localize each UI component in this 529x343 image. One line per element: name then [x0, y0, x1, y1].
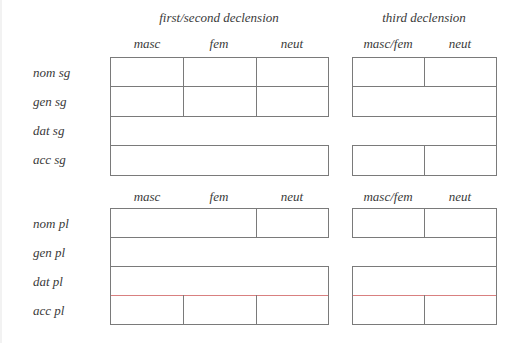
- grid-line: [352, 324, 497, 325]
- grid-line: [110, 175, 329, 176]
- cell-acc-sg-third-neut[interactable]: [425, 146, 496, 175]
- cell-nom-sg-masc[interactable]: [111, 58, 183, 86]
- cell-gen-pl-all[interactable]: [111, 238, 496, 266]
- cell-acc-pl-masc[interactable]: [111, 296, 183, 324]
- grid-line: [496, 208, 497, 325]
- grid-line: [496, 57, 497, 176]
- cell-gen-sg-fem[interactable]: [184, 87, 256, 116]
- grid-line: [328, 266, 329, 325]
- col-header-masc-fem-pl: masc/fem: [363, 189, 412, 205]
- cell-acc-pl-neut[interactable]: [257, 296, 328, 324]
- cell-nom-sg-third-neut[interactable]: [425, 58, 496, 86]
- cell-nom-sg-third-masc-fem[interactable]: [353, 58, 424, 86]
- cell-acc-sg-third-masc-fem[interactable]: [353, 146, 424, 175]
- cell-nom-pl-third-masc-fem[interactable]: [353, 209, 424, 237]
- page-edge-shadow: [0, 0, 2, 343]
- row-label-nom-sg: nom sg: [33, 65, 70, 81]
- cell-dat-sg-all[interactable]: [111, 117, 496, 145]
- col-header-neut: neut: [281, 36, 303, 52]
- grid-line: [328, 208, 329, 237]
- cell-nom-pl-third-neut[interactable]: [425, 209, 496, 237]
- cell-nom-pl-masc-fem[interactable]: [111, 209, 256, 237]
- cell-nom-sg-neut[interactable]: [257, 58, 328, 86]
- col-header-neut-third: neut: [449, 36, 471, 52]
- col-header-neut-third-pl: neut: [449, 189, 471, 205]
- cell-nom-sg-fem[interactable]: [184, 58, 256, 86]
- row-label-dat-pl: dat pl: [33, 274, 63, 290]
- col-header-neut-pl: neut: [281, 189, 303, 205]
- cell-acc-sg-first-second[interactable]: [111, 146, 328, 175]
- row-label-acc-sg: acc sg: [33, 152, 66, 168]
- cell-acc-pl-fem[interactable]: [184, 296, 256, 324]
- row-label-gen-sg: gen sg: [33, 94, 67, 110]
- col-header-masc-fem: masc/fem: [363, 36, 412, 52]
- row-label-acc-pl: acc pl: [33, 303, 64, 319]
- col-header-fem-pl: fem: [210, 189, 229, 205]
- cell-gen-sg-third[interactable]: [353, 87, 496, 116]
- cell-gen-sg-masc[interactable]: [111, 87, 183, 116]
- col-header-masc-pl: masc: [134, 189, 161, 205]
- cell-gen-sg-neut[interactable]: [257, 87, 328, 116]
- cell-acc-pl-third-neut[interactable]: [425, 296, 496, 324]
- cell-acc-pl-third-masc-fem[interactable]: [353, 296, 424, 324]
- heading-first-second-declension: first/second declension: [159, 10, 279, 26]
- row-label-gen-pl: gen pl: [33, 245, 65, 261]
- cell-dat-pl-third[interactable]: [353, 267, 496, 295]
- cell-dat-pl-first-second[interactable]: [111, 267, 328, 295]
- row-label-dat-sg: dat sg: [33, 123, 64, 139]
- col-header-masc: masc: [134, 36, 161, 52]
- grid-line: [328, 57, 329, 116]
- heading-third-declension: third declension: [382, 10, 466, 26]
- col-header-fem: fem: [210, 36, 229, 52]
- cell-nom-pl-neut[interactable]: [257, 209, 328, 237]
- grid-line: [328, 145, 329, 176]
- grid-line: [110, 324, 329, 325]
- row-label-nom-pl: nom pl: [33, 216, 69, 232]
